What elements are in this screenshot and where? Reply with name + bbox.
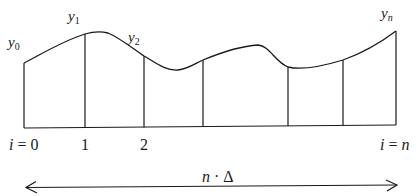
- label-y0: y0: [6, 34, 20, 52]
- baseline: [24, 125, 396, 128]
- label-i-n: i = n: [380, 136, 409, 153]
- trapezoid-diagram: y0 y1 y2 yn i = 0 1 2 i = n n · Δ: [0, 0, 417, 196]
- label-y1: y1: [66, 8, 80, 26]
- label-yn: yn: [379, 5, 393, 23]
- label-i-0: i = 0: [9, 136, 38, 153]
- label-y2: y2: [126, 29, 140, 47]
- label-tick-2: 2: [140, 136, 148, 153]
- label-width: n · Δ: [202, 168, 234, 185]
- function-curve: [24, 31, 396, 70]
- label-tick-1: 1: [81, 136, 89, 153]
